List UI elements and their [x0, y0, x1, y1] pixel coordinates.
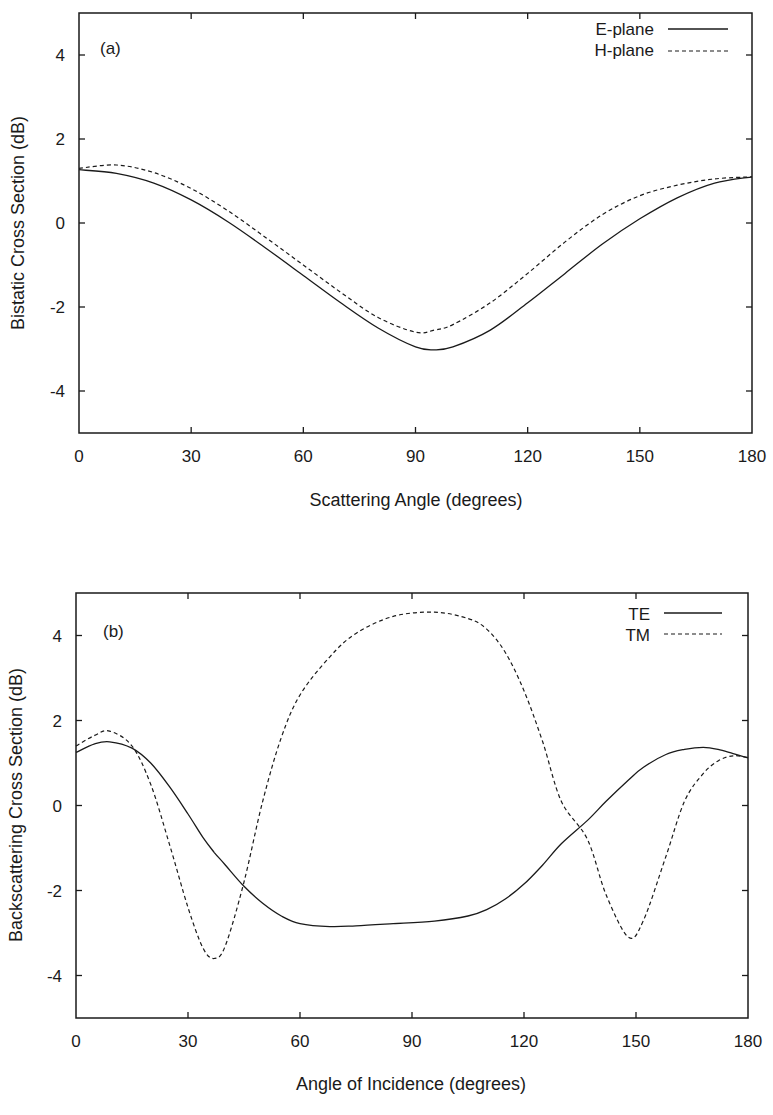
- legend-b: TE TM: [625, 605, 722, 645]
- x-tick-label: 120: [513, 447, 541, 466]
- y-tick-label: -2: [47, 882, 62, 901]
- x-tick-label: 150: [622, 1032, 650, 1051]
- axis-ticks-a: [79, 13, 752, 433]
- series-te: [76, 742, 748, 927]
- tick-labels-a: 0306090120150180-4-2024: [50, 46, 766, 466]
- tick-labels-b: 0306090120150180-4-2024: [47, 627, 762, 1052]
- y-tick-label: 0: [53, 797, 62, 816]
- x-tick-label: 120: [510, 1032, 538, 1051]
- x-tick-label: 180: [734, 1032, 762, 1051]
- legend-label-h-plane: H-plane: [594, 41, 654, 60]
- x-tick-label: 60: [294, 447, 313, 466]
- chart-panel-b: 0306090120150180-4-2024 (b) TE TM Angle …: [6, 593, 762, 1094]
- y-tick-label: -4: [47, 967, 62, 986]
- y-tick-label: 4: [56, 46, 65, 65]
- plot-frame-a: [79, 13, 752, 433]
- y-tick-label: 0: [56, 214, 65, 233]
- y-axis-title-a: Bistatic Cross Section (dB): [8, 116, 28, 330]
- x-tick-label: 150: [626, 447, 654, 466]
- y-axis-title-b: Backscattering Cross Section (dB): [6, 668, 26, 942]
- y-tick-label: 4: [53, 627, 62, 646]
- panel-label-a: (a): [100, 39, 121, 58]
- legend-label-e-plane: E-plane: [595, 20, 654, 39]
- legend-a: E-plane H-plane: [594, 20, 728, 60]
- x-tick-label: 90: [406, 447, 425, 466]
- y-tick-label: 2: [56, 130, 65, 149]
- series-e-plane: [79, 170, 752, 350]
- legend-label-tm: TM: [625, 626, 650, 645]
- y-tick-label: -4: [50, 382, 65, 401]
- legend-label-te: TE: [628, 605, 650, 624]
- figure: 0306090120150180-4-2024 (a) E-plane H-pl…: [0, 0, 773, 1115]
- series-h-plane: [79, 165, 752, 333]
- x-tick-label: 90: [403, 1032, 422, 1051]
- x-tick-label: 30: [179, 1032, 198, 1051]
- plot-frame-b: [76, 593, 748, 1018]
- x-axis-title-b: Angle of Incidence (degrees): [296, 1074, 526, 1094]
- chart-panel-a: 0306090120150180-4-2024 (a) E-plane H-pl…: [8, 13, 766, 510]
- x-tick-label: 0: [71, 1032, 80, 1051]
- x-tick-label: 60: [291, 1032, 310, 1051]
- y-tick-label: 2: [53, 712, 62, 731]
- series-tm: [76, 612, 748, 958]
- x-axis-title-a: Scattering Angle (degrees): [309, 490, 522, 510]
- panel-label-b: (b): [103, 622, 124, 641]
- x-tick-label: 30: [182, 447, 201, 466]
- x-tick-label: 0: [74, 447, 83, 466]
- x-tick-label: 180: [738, 447, 766, 466]
- y-tick-label: -2: [50, 298, 65, 317]
- axis-ticks-b: [76, 593, 748, 1018]
